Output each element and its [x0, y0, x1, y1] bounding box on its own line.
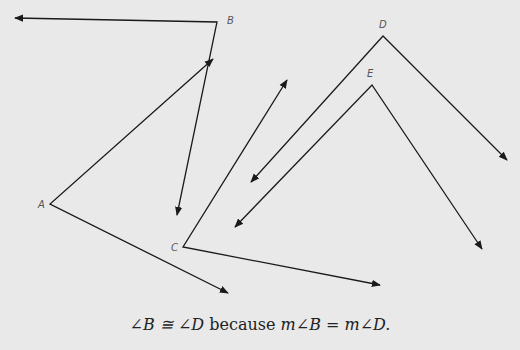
angle-d: [251, 36, 507, 182]
vertex-label-e: E: [367, 68, 374, 79]
angle-c: [183, 80, 380, 285]
caption-congruence: ∠B ≅ ∠D: [130, 315, 205, 334]
angles-diagram: ABCDE: [0, 0, 520, 350]
angle-e: [235, 85, 482, 249]
vertex-label-b: B: [227, 15, 234, 26]
caption: ∠B ≅ ∠D because m∠B = m∠D.: [0, 315, 520, 334]
vertex-label-d: D: [379, 19, 387, 30]
angle-a: [50, 59, 228, 293]
vertex-label-a: A: [37, 199, 45, 210]
caption-because: because: [204, 315, 280, 334]
angle-b: [15, 18, 217, 215]
caption-measure: m∠B = m∠D.: [281, 315, 391, 334]
vertex-label-c: C: [171, 242, 178, 253]
